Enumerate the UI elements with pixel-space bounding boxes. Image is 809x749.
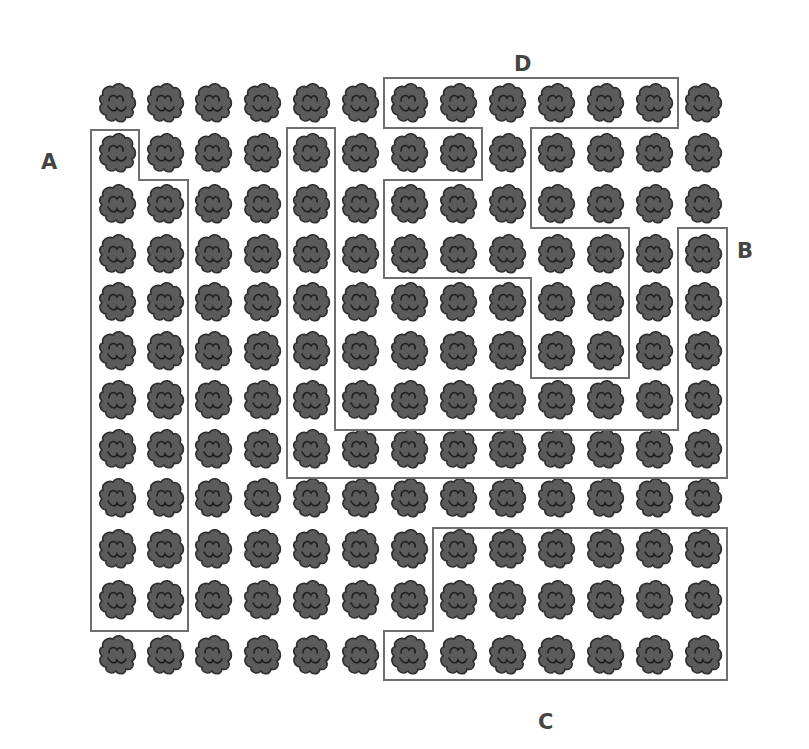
cell-cluster-icon <box>100 636 136 674</box>
cell-cluster-icon <box>148 283 184 321</box>
cell-cluster-icon <box>441 636 477 674</box>
cell-cluster-icon <box>637 332 673 370</box>
cell-cluster-icon <box>294 332 330 370</box>
cell-cluster-icon <box>637 185 673 223</box>
cell-cluster-icon <box>539 185 575 223</box>
cell-cluster-icon <box>100 530 136 568</box>
cell-cluster-icon <box>588 381 624 419</box>
cell-cluster-icon <box>588 332 624 370</box>
cell-cluster-icon <box>539 381 575 419</box>
cell-cluster-icon <box>441 185 477 223</box>
cell-cluster-icon <box>343 283 379 321</box>
cell-cluster-icon <box>588 84 624 122</box>
cell-cluster-icon <box>392 283 428 321</box>
cell-cluster-icon <box>196 235 232 273</box>
cell-cluster-icon <box>441 283 477 321</box>
cell-cluster-icon <box>196 430 232 468</box>
cell-cluster-icon <box>539 134 575 172</box>
cell-cluster-icon <box>343 84 379 122</box>
cell-cluster-icon <box>294 581 330 619</box>
cell-cluster-icon <box>100 581 136 619</box>
cell-cluster-icon <box>441 581 477 619</box>
cell-cluster-icon <box>539 430 575 468</box>
cell-cluster-icon <box>392 185 428 223</box>
cell-cluster-icon <box>148 430 184 468</box>
cell-cluster-icon <box>392 381 428 419</box>
cell-cluster-icon <box>490 381 526 419</box>
cell-cluster-icon <box>245 530 281 568</box>
cell-cluster-icon <box>294 381 330 419</box>
cell-cluster-icon <box>490 430 526 468</box>
cell-cluster-icon <box>196 84 232 122</box>
cell-cluster-icon <box>343 134 379 172</box>
cell-cluster-icon <box>148 84 184 122</box>
cell-cluster-icon <box>637 479 673 517</box>
cell-cluster-icon <box>588 636 624 674</box>
cell-cluster-icon <box>343 530 379 568</box>
cell-cluster-icon <box>490 84 526 122</box>
cell-cluster-icon <box>294 530 330 568</box>
cell-cluster-icon <box>294 636 330 674</box>
cell-cluster-icon <box>245 283 281 321</box>
cell-cluster-icon <box>588 530 624 568</box>
cell-cluster-icon <box>196 530 232 568</box>
cell-cluster-icon <box>294 283 330 321</box>
cell-cluster-icon <box>245 185 281 223</box>
cell-cluster-icon <box>196 283 232 321</box>
cell-cluster-icon <box>539 479 575 517</box>
cell-cluster-icon <box>490 636 526 674</box>
cell-cluster-icon <box>294 235 330 273</box>
cell-cluster-icon <box>686 636 722 674</box>
cell-cluster-icon <box>196 636 232 674</box>
cell-cluster-icon <box>343 479 379 517</box>
cell-cluster-icon <box>392 581 428 619</box>
cell-cluster-icon <box>588 479 624 517</box>
cell-cluster-icon <box>245 84 281 122</box>
cell-cluster-icon <box>686 381 722 419</box>
cell-cluster-icon <box>294 84 330 122</box>
cell-cluster-icon <box>148 636 184 674</box>
cell-cluster-icon <box>637 430 673 468</box>
cell-cluster-icon <box>294 185 330 223</box>
cell-cluster-icon <box>148 530 184 568</box>
cell-cluster-icon <box>588 185 624 223</box>
cell-cluster-icon <box>245 332 281 370</box>
cell-cluster-icon <box>441 235 477 273</box>
diagram-canvas <box>0 0 809 749</box>
cell-cluster-icon <box>392 235 428 273</box>
cell-cluster-icon <box>441 381 477 419</box>
cell-cluster-icon <box>637 381 673 419</box>
cell-cluster-icon <box>196 381 232 419</box>
cell-cluster-icon <box>343 332 379 370</box>
cell-cluster-icon <box>490 332 526 370</box>
cell-cluster-icon <box>637 84 673 122</box>
cell-cluster-icon <box>441 332 477 370</box>
cell-cluster-icon <box>343 430 379 468</box>
cell-cluster-icon <box>490 134 526 172</box>
cell-cluster-icon <box>100 332 136 370</box>
cell-cluster-icon <box>100 84 136 122</box>
cell-cluster-icon <box>686 84 722 122</box>
cell-cluster-icon <box>148 332 184 370</box>
region-label-b: B <box>737 239 753 263</box>
cell-cluster-icon <box>441 84 477 122</box>
cell-cluster-icon <box>539 636 575 674</box>
cell-cluster-icon <box>441 134 477 172</box>
cell-cluster-icon <box>490 235 526 273</box>
cell-cluster-icon <box>148 479 184 517</box>
cell-cluster-icon <box>588 134 624 172</box>
cell-cluster-icon <box>539 283 575 321</box>
cell-cluster-icon <box>539 84 575 122</box>
cell-cluster-icon <box>343 581 379 619</box>
grid-diagram: A B C D <box>0 0 809 749</box>
cell-cluster-icon <box>148 581 184 619</box>
cell-cluster-icon <box>686 185 722 223</box>
cell-cluster-icon <box>539 581 575 619</box>
cell-cluster-icon <box>686 134 722 172</box>
cell-cluster-icon <box>245 581 281 619</box>
cell-cluster-icon <box>441 479 477 517</box>
cell-cluster-icon <box>100 185 136 223</box>
cell-cluster-icon <box>148 235 184 273</box>
cell-cluster-icon <box>686 430 722 468</box>
cell-cluster-icon <box>100 134 136 172</box>
